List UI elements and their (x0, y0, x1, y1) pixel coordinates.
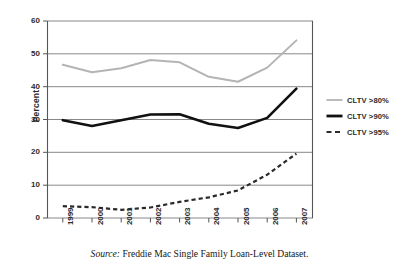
series-line-cltv-90 (63, 89, 297, 128)
legend-swatch-dashed-icon (326, 127, 343, 137)
gridlines (47, 21, 313, 218)
x-tick-label-2004: 2004 (212, 208, 221, 225)
legend-item-cltv-90[interactable]: CLTV >90% (326, 108, 399, 124)
y-tick-marks (43, 21, 47, 218)
chart-legend: CLTV >80% CLTV >90% CLTV >95% (326, 92, 399, 140)
legend-item-cltv-80[interactable]: CLTV >80% (326, 92, 399, 108)
series-group (63, 40, 297, 209)
x-tick-label-2002: 2002 (154, 208, 163, 225)
source-caption-text: Freddie Mac Single Family Loan-Level Dat… (120, 248, 308, 259)
x-tick-label-1999: 1999 (66, 208, 75, 225)
x-tick-label-2001: 2001 (125, 208, 134, 225)
series-line-cltv-95 (63, 154, 297, 210)
y-tick-label-10: 10 (18, 180, 40, 189)
legend-swatch-solid-thin-icon (326, 95, 343, 105)
legend-swatch-solid-thick-icon (326, 111, 343, 121)
y-tick-label-40: 40 (18, 82, 40, 91)
series-line-cltv-80 (63, 40, 297, 81)
chart-svg (0, 0, 330, 240)
y-tick-label-0: 0 (18, 213, 40, 222)
chart-plot-region: Percent 60 50 40 30 20 10 0 1999 2000 20… (0, 0, 330, 240)
source-caption: Source: Freddie Mac Single Family Loan-L… (0, 248, 399, 259)
x-tick-label-2003: 2003 (183, 208, 192, 225)
x-tick-label-2005: 2005 (242, 208, 251, 225)
y-tick-label-50: 50 (18, 49, 40, 58)
legend-label-cltv-80: CLTV >80% (347, 96, 389, 105)
legend-label-cltv-90: CLTV >90% (347, 112, 389, 121)
x-tick-label-2006: 2006 (271, 208, 280, 225)
legend-item-cltv-95[interactable]: CLTV >95% (326, 124, 399, 140)
source-caption-label: Source: (91, 248, 120, 259)
y-tick-label-30: 30 (18, 115, 40, 124)
x-tick-label-2007: 2007 (300, 208, 309, 225)
legend-label-cltv-95: CLTV >95% (347, 128, 389, 137)
y-tick-label-60: 60 (18, 16, 40, 25)
figure-chart-cltv: Percent 60 50 40 30 20 10 0 1999 2000 20… (0, 0, 399, 270)
y-tick-label-20: 20 (18, 147, 40, 156)
x-tick-label-2000: 2000 (96, 208, 105, 225)
